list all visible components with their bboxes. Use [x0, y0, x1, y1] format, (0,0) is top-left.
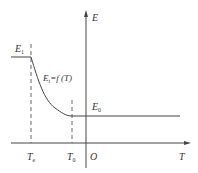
- et-curve: [31, 57, 72, 116]
- origin-label: O: [90, 151, 97, 162]
- e-axis-label: E: [91, 12, 98, 23]
- e1-label: E1: [14, 43, 24, 55]
- e0-label: E0: [91, 101, 101, 113]
- t-axis-arrow-icon: [184, 141, 191, 145]
- t-axis-label: T: [179, 151, 186, 162]
- curve-label: Et=f (T): [42, 73, 72, 84]
- te-label: Te: [27, 151, 36, 163]
- e-axis-arrow-icon: [84, 10, 88, 17]
- energy-temperature-diagram: E E1 Et=f (T) E0 Te T0 O T: [0, 0, 198, 173]
- t0-label: T0: [67, 151, 76, 163]
